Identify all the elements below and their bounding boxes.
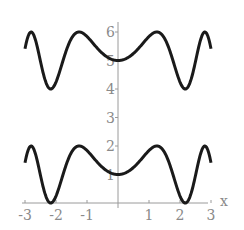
- x-tick-label: 3: [207, 207, 216, 223]
- x-tick-label: 1: [145, 207, 154, 223]
- x-tick-label: 2: [176, 207, 185, 223]
- x-tick-label: -3: [18, 207, 32, 223]
- y-tick-label: 6: [106, 24, 115, 40]
- x-tick-label: -1: [80, 207, 94, 223]
- plot-area: -3-2-1123123456 x: [0, 0, 244, 230]
- y-tick-label: 3: [106, 110, 115, 126]
- y-tick-label: 2: [106, 138, 115, 154]
- x-tick-label: -2: [49, 207, 63, 223]
- y-tick-label: 4: [106, 81, 115, 97]
- x-axis-label: x: [220, 193, 228, 209]
